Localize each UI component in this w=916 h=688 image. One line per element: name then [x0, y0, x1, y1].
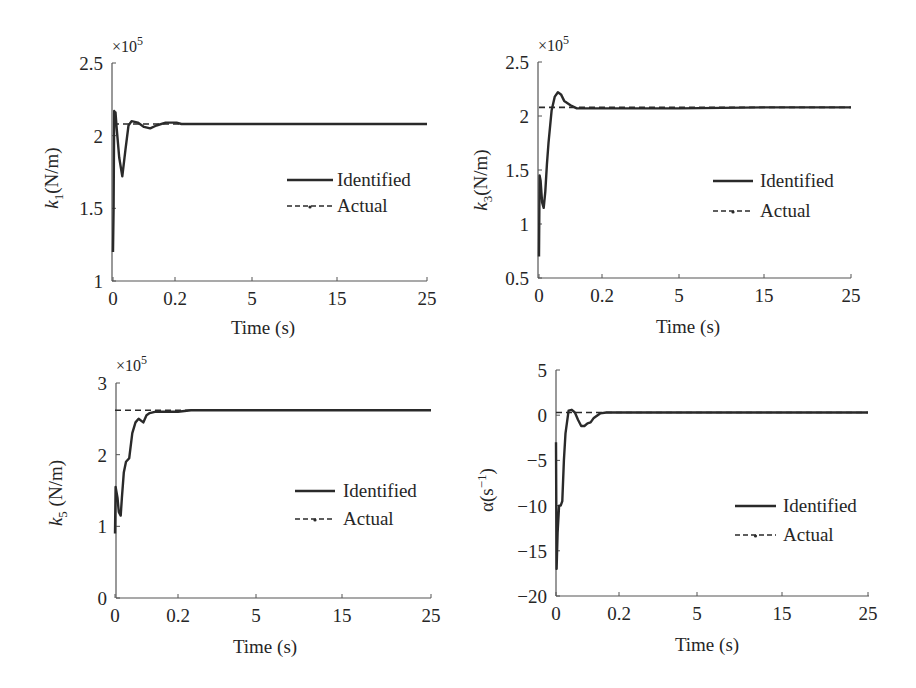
y-axis-title: α(s−1): [474, 468, 498, 512]
x-tick-label: 15: [773, 603, 792, 624]
legend-actual-label: Actual: [343, 508, 394, 529]
series-identified-line: [556, 410, 868, 569]
y-multiplier: ×105: [538, 33, 569, 54]
x-tick-label: 0.2: [607, 603, 631, 624]
x-tick-label: 25: [842, 285, 861, 306]
x-tick-label: 15: [333, 605, 352, 626]
y-tick-label: 2: [98, 445, 108, 466]
legend-actual-label: Actual: [783, 524, 834, 545]
legend: IdentifiedActual: [287, 169, 411, 216]
legend: IdentifiedActual: [295, 480, 417, 529]
x-axis-title: Time (s): [233, 636, 297, 658]
legend-actual-marker-icon: [754, 534, 757, 537]
chart-alpha: 00.251525−20−15−10−505Time (s)α(s−1)Iden…: [474, 360, 878, 656]
x-tick-label: 0.2: [163, 288, 187, 309]
y-tick-label: 2.5: [505, 52, 529, 73]
y-tick-label: 5: [538, 360, 548, 381]
legend-identified-label: Identified: [337, 169, 411, 190]
y-tick-label: 2: [94, 126, 104, 147]
figure: 00.25152511.522.5×105Time (s)k1(N/m)Iden…: [0, 0, 916, 688]
legend: IdentifiedActual: [735, 495, 857, 545]
y-axis-title: k1(N/m): [41, 147, 66, 208]
y-tick-label: 1: [520, 214, 530, 235]
x-tick-label: 15: [328, 288, 347, 309]
legend: IdentifiedActual: [713, 170, 834, 221]
y-tick-label: 1.5: [505, 160, 529, 181]
y-tick-label: 0: [538, 405, 548, 426]
y-tick-label: −15: [517, 541, 547, 562]
x-axis-title: Time (s): [675, 634, 739, 656]
x-tick-label: 0: [110, 605, 120, 626]
x-tick-label: 5: [251, 605, 261, 626]
legend-actual-marker-icon: [308, 205, 311, 208]
y-multiplier: ×105: [112, 34, 143, 55]
y-axis-title: k5 (N/m): [45, 460, 70, 526]
legend-actual-label: Actual: [337, 195, 388, 216]
legend-actual-marker-icon: [731, 210, 734, 213]
figure-canvas: 00.25152511.522.5×105Time (s)k1(N/m)Iden…: [0, 0, 916, 688]
y-tick-label: 0.5: [505, 268, 529, 289]
x-axis-title: Time (s): [231, 317, 295, 339]
x-tick-label: 0: [534, 285, 544, 306]
y-tick-label: 2.5: [79, 53, 103, 74]
x-tick-label: 25: [859, 603, 878, 624]
y-axis-title: k3(N/m): [470, 149, 495, 210]
x-tick-label: 25: [418, 288, 437, 309]
y-tick-label: −20: [517, 586, 547, 607]
legend-identified-label: Identified: [343, 480, 417, 501]
y-tick-label: 3: [98, 373, 108, 394]
x-tick-label: 5: [674, 285, 684, 306]
x-tick-label: 0.2: [590, 285, 614, 306]
y-multiplier: ×105: [116, 353, 147, 374]
x-tick-label: 5: [692, 603, 702, 624]
x-tick-label: 5: [247, 288, 257, 309]
chart-k1: 00.25152511.522.5×105Time (s)k1(N/m)Iden…: [41, 34, 437, 339]
y-tick-label: 0: [98, 588, 108, 609]
legend-actual-marker-icon: [313, 518, 316, 521]
y-tick-label: 2: [520, 106, 530, 127]
legend-identified-label: Identified: [760, 170, 834, 191]
x-tick-label: 0: [108, 288, 118, 309]
chart-k3: 00.2515250.511.522.5×105Time (s)k3(N/m)I…: [470, 33, 861, 338]
y-tick-label: 1.5: [79, 198, 103, 219]
x-axis-title: Time (s): [656, 316, 720, 338]
x-tick-label: 15: [755, 285, 774, 306]
y-tick-label: 1: [98, 516, 108, 537]
x-tick-label: 25: [422, 605, 441, 626]
y-tick-label: −10: [517, 496, 547, 517]
legend-actual-label: Actual: [760, 200, 811, 221]
chart-k5: 00.2515250123×105Time (s)k5 (N/m)Identif…: [45, 353, 441, 658]
legend-identified-label: Identified: [783, 495, 857, 516]
x-tick-label: 0: [551, 603, 561, 624]
y-tick-label: 1: [94, 271, 104, 292]
x-tick-label: 0.2: [166, 605, 190, 626]
y-tick-label: −5: [527, 450, 547, 471]
